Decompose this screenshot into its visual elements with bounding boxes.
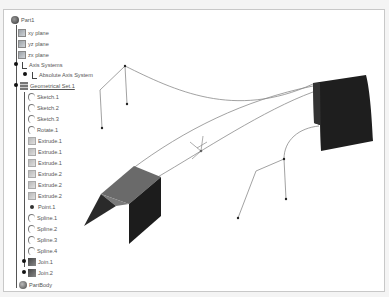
tree-node-label: Part1 (21, 17, 34, 23)
tree-node-point-1[interactable]: Point.1 (28, 202, 55, 212)
tree-node-label: Rotate.1 (37, 127, 58, 133)
join-icon (28, 269, 36, 277)
specification-tree: Part1 xy plane yz plane zx plane Axis Sy… (4, 10, 104, 293)
tree-node-extrude-2b[interactable]: Extrude.2 (28, 180, 62, 190)
sketch-icon (28, 93, 35, 101)
right-join-surface[interactable] (313, 75, 373, 151)
part-icon (11, 16, 19, 24)
tree-node-spline-4[interactable]: Spline.4 (28, 246, 57, 256)
axis-icon (32, 72, 37, 79)
tree-node-extrude-1a[interactable]: Extrude.1 (28, 136, 62, 146)
tree-node-axis-systems[interactable]: Axis Systems (22, 60, 63, 70)
tree-node-label: Spline.3 (37, 237, 57, 243)
tree-node-label: Extrude.1 (38, 138, 62, 144)
tree-node-label: Spline.2 (37, 226, 57, 232)
tree-node-yz-plane[interactable]: yz plane (18, 39, 49, 49)
tree-node-sketch-2[interactable]: Sketch.2 (28, 103, 59, 113)
catia-window: Part1 xy plane yz plane zx plane Axis Sy… (3, 9, 385, 292)
tree-node-extrude-1c[interactable]: Extrude.1 (28, 158, 62, 168)
tree-node-label: Geometrical Set.1 (30, 83, 75, 89)
extrude-icon (28, 192, 36, 200)
tree-node-absolute-axis-system[interactable]: Absolute Axis System (32, 70, 93, 80)
tree-node-spline-3[interactable]: Spline.3 (28, 235, 57, 245)
tree-node-label: PartBody (29, 282, 52, 288)
tree-node-label: Point.1 (38, 204, 55, 210)
expand-toggle[interactable] (23, 72, 27, 76)
tree-node-label: Spline.1 (37, 215, 57, 221)
point-icon (30, 205, 34, 209)
tree-node-label: Sketch.2 (37, 105, 59, 111)
tree-node-sketch-3[interactable]: Sketch.3 (28, 114, 59, 124)
rotate-icon (28, 126, 35, 134)
plane-icon (18, 29, 26, 37)
tree-node-label: Extrude.1 (38, 149, 62, 155)
spline-icon (28, 214, 35, 222)
plane-icon (18, 51, 26, 59)
tree-node-label: Extrude.2 (38, 171, 62, 177)
tree-node-join-2[interactable]: Join.2 (28, 268, 53, 278)
expand-toggle[interactable] (14, 62, 18, 66)
tree-node-sketch-1[interactable]: Sketch.1 (28, 92, 59, 102)
tree-node-partbody[interactable]: PartBody (19, 280, 52, 290)
sketch-icon (28, 104, 35, 112)
spline-icon (28, 247, 35, 255)
tree-node-join-1[interactable]: Join.1 (28, 257, 53, 267)
geoset-branch (24, 92, 25, 267)
tree-node-label: Sketch.3 (37, 116, 59, 122)
extrude-icon (28, 159, 36, 167)
tree-node-label: zx plane (28, 52, 49, 58)
axis-icon (22, 62, 27, 69)
tree-node-part1[interactable]: Part1 (11, 15, 34, 25)
expand-toggle[interactable] (22, 259, 26, 263)
join-icon (28, 258, 36, 266)
tree-node-label: Axis Systems (29, 62, 63, 68)
tree-node-label: Join.2 (38, 270, 53, 276)
tree-node-label: Extrude.2 (38, 182, 62, 188)
tree-node-label: yz plane (28, 41, 49, 47)
tree-node-extrude-1b[interactable]: Extrude.1 (28, 147, 62, 157)
spline-icon (28, 225, 35, 233)
tree-node-label: Extrude.2 (38, 193, 62, 199)
tree-node-rotate-1[interactable]: Rotate.1 (28, 125, 58, 135)
tree-node-zx-plane[interactable]: zx plane (18, 50, 49, 60)
extrude-icon (28, 170, 36, 178)
extrude-icon (28, 181, 36, 189)
sketch-icon (28, 115, 35, 123)
tree-node-label: Absolute Axis System (39, 72, 93, 78)
tree-node-label: xy plane (28, 30, 49, 36)
tree-node-spline-1[interactable]: Spline.1 (28, 213, 57, 223)
tree-node-extrude-2c[interactable]: Extrude.2 (28, 191, 62, 201)
geometrical-set-icon (20, 82, 28, 90)
tree-node-extrude-2a[interactable]: Extrude.2 (28, 169, 62, 179)
tree-node-label: Spline.4 (37, 248, 57, 254)
extrude-icon (28, 148, 36, 156)
tree-node-xy-plane[interactable]: xy plane (18, 28, 49, 38)
extrude-icon (28, 137, 36, 145)
plane-icon (18, 40, 26, 48)
axis-triad-icon (190, 136, 207, 159)
expand-toggle[interactable] (14, 83, 18, 87)
tree-node-label: Extrude.1 (38, 160, 62, 166)
tree-node-label: Join.1 (38, 259, 53, 265)
tree-node-geometrical-set[interactable]: Geometrical Set.1 (20, 81, 75, 91)
spline-icon (28, 236, 35, 244)
expand-toggle[interactable] (22, 270, 26, 274)
tree-node-label: Sketch.1 (37, 94, 59, 100)
body-icon (19, 281, 27, 289)
tree-node-spline-2[interactable]: Spline.2 (28, 224, 57, 234)
